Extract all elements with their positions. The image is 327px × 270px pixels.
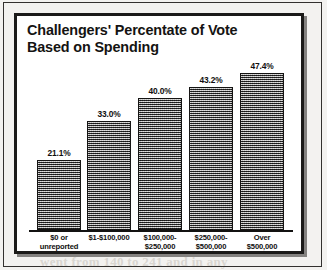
bar: [189, 87, 233, 230]
x-axis-tick-labels: $0 or unreported $1-$100,000 $100,000- $…: [37, 233, 285, 263]
bar: [240, 73, 284, 230]
bar-value-label: 47.4%: [232, 61, 292, 71]
x-tick-label-4: Over $500,000: [231, 233, 293, 252]
bar-chart-figure: Challengers' Percentate of Vote Based on…: [14, 13, 304, 254]
bar: [87, 121, 131, 230]
plot-area: 21.1% 33.0% 40.0% 43.2% 47.4%: [17, 16, 301, 251]
bar: [138, 98, 182, 230]
bar-value-label: 33.0%: [79, 109, 139, 119]
bar: [37, 160, 81, 230]
x-axis-line: [29, 230, 293, 232]
bar-value-label: 21.1%: [29, 148, 89, 158]
scanned-page: a commitment to the same sort of races i…: [0, 0, 327, 270]
bars-container: 21.1% 33.0% 40.0% 43.2% 47.4%: [37, 58, 285, 230]
bar-value-label: 43.2%: [181, 75, 241, 85]
bar-value-label: 40.0%: [130, 86, 190, 96]
